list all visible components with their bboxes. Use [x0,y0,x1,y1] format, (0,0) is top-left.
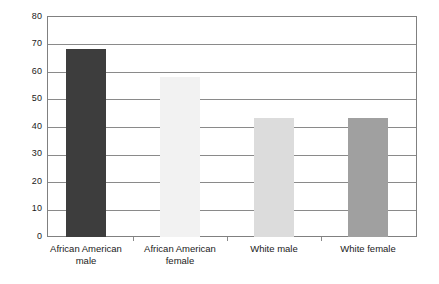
bar-african-american-male [66,49,106,237]
x-tick-label-line: White female [321,243,415,255]
y-tick-label: 60 [0,67,42,76]
x-tick-label-line: male [39,255,133,267]
bar-african-american-female [160,77,200,237]
x-tick-label-african-american-female: African American female [133,243,227,267]
x-tick [133,237,134,241]
y-tick-label: 70 [0,39,42,48]
y-tick-label: 0 [0,232,42,241]
x-tick-label-african-american-male: African American male [39,243,133,267]
bars-layer [47,16,417,237]
x-tick [227,237,228,241]
y-tick-label: 30 [0,149,42,158]
x-tick-label-line: female [133,255,227,267]
x-tick-label-line: African American [39,243,133,255]
x-tick [321,237,322,241]
x-tick-label-line: White male [227,243,321,255]
bar-white-male [254,118,294,237]
x-tick-label-white-female: White female [321,243,415,255]
y-tick-label: 40 [0,122,42,131]
x-axis: African American male African American f… [47,243,417,277]
x-tick-label-white-male: White male [227,243,321,255]
y-axis: 80 70 60 50 40 30 20 10 0 [0,0,42,284]
y-tick-label: 50 [0,94,42,103]
bar-chart-figure: 80 70 60 50 40 30 20 10 0 African Americ… [0,0,439,284]
y-tick-label: 80 [0,12,42,21]
x-tick-label-line: African American [133,243,227,255]
y-tick-label: 10 [0,204,42,213]
bar-white-female [348,118,388,237]
y-tick-label: 20 [0,177,42,186]
x-axis-ticks [47,237,417,242]
